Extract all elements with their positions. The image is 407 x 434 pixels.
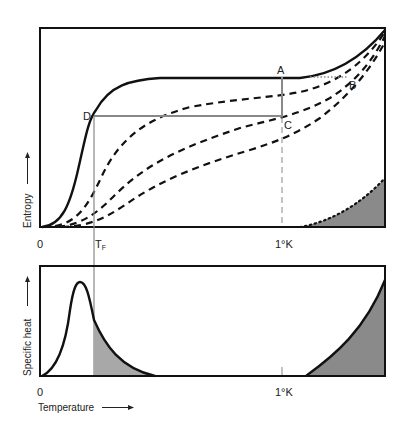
entropy-specific-heat-diagram: A B C D Entropy 0 TF 1°K Specific hea — [0, 0, 407, 434]
bottom-panel: Specific heat 0 1°K Temperature — [22, 266, 385, 413]
specific-heat-axis-label: Specific heat — [22, 276, 33, 376]
lattice-entropy-fill — [300, 178, 385, 227]
entropy-arrow-icon — [25, 152, 30, 158]
point-label-a: A — [277, 64, 285, 76]
entropy-curve-field-2 — [58, 36, 385, 227]
lattice-specific-heat-fill — [308, 280, 385, 376]
point-label-d: D — [83, 110, 91, 122]
specific-heat-tail-fill — [94, 322, 152, 376]
entropy-label-text: Entropy — [22, 194, 33, 228]
top-x-tick-1k: 1°K — [275, 238, 294, 250]
temperature-arrow-icon — [128, 405, 134, 410]
bottom-x-tick-zero: 0 — [37, 386, 43, 398]
specific-heat-label-text: Specific heat — [22, 319, 33, 376]
entropy-axis-label: Entropy — [22, 152, 33, 228]
specific-heat-arrow-icon — [25, 276, 30, 282]
point-label-c: C — [284, 119, 292, 131]
point-label-b: B — [349, 79, 356, 91]
bottom-x-tick-1k: 1°K — [275, 386, 294, 398]
top-panel: A B C D Entropy 0 TF 1°K — [22, 28, 385, 251]
top-x-tick-zero: 0 — [37, 238, 43, 250]
top-x-tick-tf: TF — [95, 238, 106, 251]
entropy-curve-field-1 — [55, 32, 385, 226]
temperature-axis-label: Temperature — [38, 402, 95, 413]
